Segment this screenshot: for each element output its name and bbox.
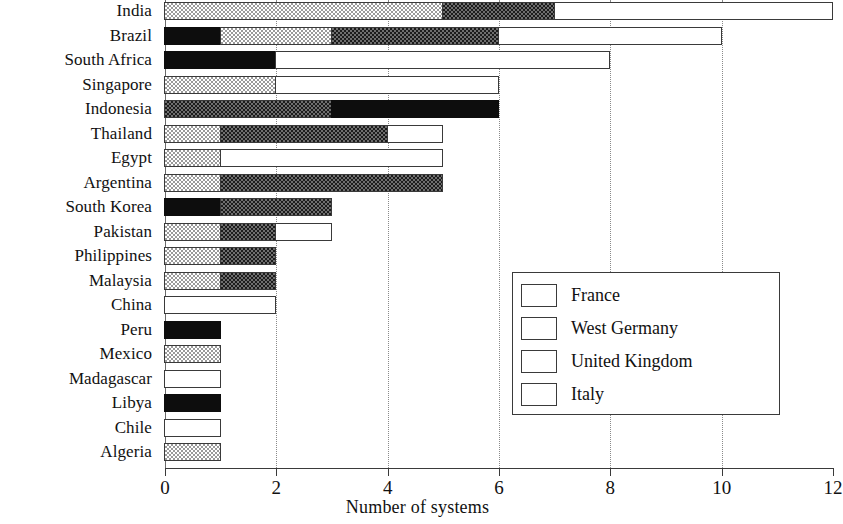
bar-segment-west-germany [164,100,332,118]
gridline [388,0,389,468]
x-axis-tick-label: 10 [712,477,731,499]
x-axis-tick [833,468,834,476]
legend-swatch-italy [521,383,557,406]
bar-segment-united-kingdom [164,125,221,143]
category-label: South Africa [2,51,152,69]
category-label: Brazil [2,27,152,45]
bar-segment-west-germany [220,247,277,265]
category-label: Peru [2,321,152,339]
category-label: South Korea [2,198,152,216]
chart-legend: FranceWest GermanyUnited KingdomItaly [512,272,780,415]
bar-segment-italy [164,321,221,339]
x-axis-tick [388,468,389,476]
legend-label: United Kingdom [571,351,693,372]
bar-segment-italy [164,51,276,69]
category-label: Pakistan [2,223,152,241]
category-label: Libya [2,394,152,412]
bar-segment-west-germany [331,27,499,45]
bar-segment-france [275,76,499,94]
category-label: Algeria [2,443,152,461]
bar-segment-italy [331,100,499,118]
legend-label: France [571,285,620,306]
legend-label: West Germany [571,318,678,339]
bar-segment-france [554,2,833,20]
x-axis-tick [722,468,723,476]
bar-segment-west-germany [220,125,388,143]
category-label: China [2,296,152,314]
category-label: Indonesia [2,100,152,118]
legend-item[interactable]: West Germany [521,312,779,345]
bar-segment-west-germany [220,272,277,290]
category-label: Mexico [2,345,152,363]
x-axis-tick-label: 12 [824,477,843,499]
bar-segment-france [498,27,722,45]
x-axis-tick-label: 4 [383,477,393,499]
x-axis-tick-label: 8 [606,477,616,499]
category-label: Madagascar [2,370,152,388]
legend-swatch-united-kingdom [521,350,557,373]
bar-segment-france [275,51,610,69]
category-label: Egypt [2,149,152,167]
bar-segment-west-germany [220,198,332,216]
legend-item[interactable]: France [521,279,779,312]
legend-label: Italy [571,384,604,405]
bar-segment-france [220,149,444,167]
category-label: India [2,2,152,20]
bar-segment-france [164,296,276,314]
legend-item[interactable]: United Kingdom [521,345,779,378]
category-axis-labels: IndiaBrazilSouth AfricaSingaporeIndonesi… [0,0,160,468]
bar-segment-france [164,370,221,388]
bar-segment-west-germany [220,223,277,241]
category-label: Chile [2,419,152,437]
x-axis-title: Number of systems [0,497,835,518]
bar-segment-italy [164,394,221,412]
bar-segment-italy [164,27,221,45]
legend-swatch-west-germany [521,317,557,340]
bar-segment-united-kingdom [164,345,221,363]
bar-segment-italy [164,198,221,216]
bar-segment-united-kingdom [164,149,221,167]
bar-segment-west-germany [220,174,444,192]
category-label: Philippines [2,247,152,265]
x-axis-tick-label: 0 [160,477,170,499]
bar-segment-france [275,223,332,241]
category-label: Singapore [2,76,152,94]
bar-segment-united-kingdom [220,27,332,45]
category-label: Thailand [2,125,152,143]
legend-swatch-france [521,284,557,307]
legend-item[interactable]: Italy [521,378,779,411]
bar-segment-united-kingdom [164,443,221,461]
bar-segment-united-kingdom [164,174,221,192]
bar-segment-united-kingdom [164,272,221,290]
category-label: Malaysia [2,272,152,290]
x-axis-tick [499,468,500,476]
x-axis-tick-label: 6 [494,477,504,499]
gridline [499,0,500,468]
bar-segment-france [164,419,221,437]
bar-segment-united-kingdom [164,76,276,94]
bar-segment-west-germany [442,2,554,20]
bar-segment-united-kingdom [164,223,221,241]
x-axis-tick-label: 2 [272,477,282,499]
bar-segment-france [387,125,444,143]
category-label: Argentina [2,174,152,192]
bar-segment-united-kingdom [164,247,221,265]
x-axis-tick [610,468,611,476]
bar-segment-united-kingdom [164,2,443,20]
x-axis-tick [165,468,166,476]
x-axis-tick [276,468,277,476]
